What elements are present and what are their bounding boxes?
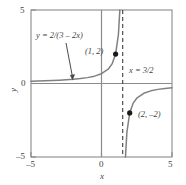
point-1-2-label: (1, 2) — [85, 47, 103, 56]
y-tick-label-5: 5 — [20, 6, 25, 15]
y-axis-title: y — [9, 88, 18, 92]
marker-point-2-neg2 — [127, 110, 132, 115]
point-2-neg2-label: (2, –2) — [138, 110, 161, 119]
plot-canvas — [0, 0, 186, 185]
figure-container: –5 0 5 5 0 –5 x y y = 2/(3 – 2x) (1, 2) … — [0, 0, 186, 185]
asymptote-label: x = 3/2 — [129, 66, 154, 75]
y-tick-label-0: 0 — [21, 79, 26, 88]
x-tick-label-0: 0 — [99, 160, 104, 169]
y-tick-label-neg5: –5 — [16, 152, 25, 161]
marker-point-1-2 — [113, 52, 118, 57]
function-equation-label: y = 2/(3 – 2x) — [36, 31, 83, 40]
x-tick-label-neg5: –5 — [26, 160, 35, 169]
x-axis-title: x — [100, 172, 104, 181]
x-tick-label-5: 5 — [168, 160, 173, 169]
